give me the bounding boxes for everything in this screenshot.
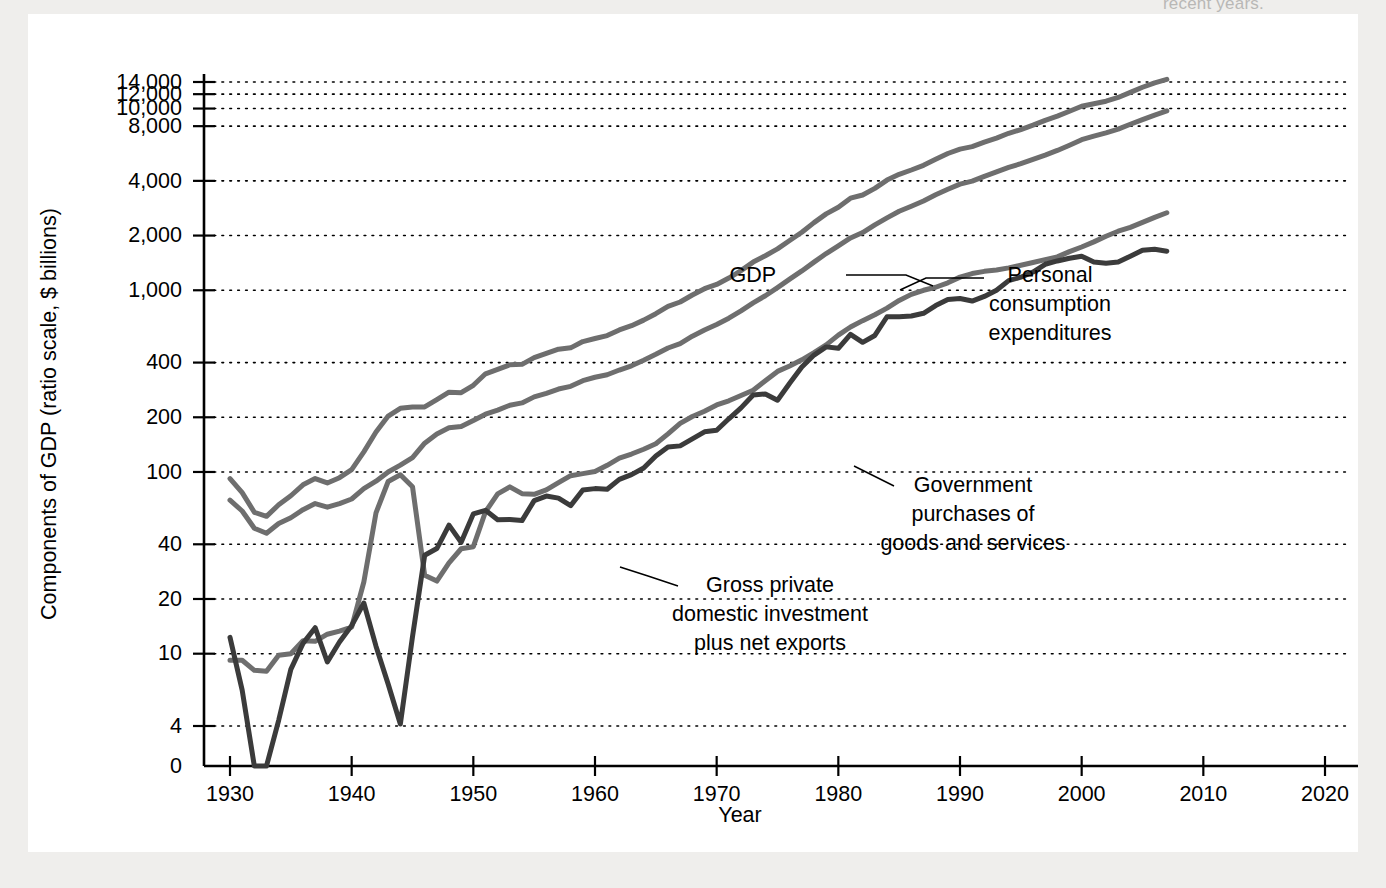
figure-panel: 41020401002004001,0002,0004,0008,00010,0… [28,14,1358,852]
axes [204,74,1358,766]
x-tick-label: 1950 [449,782,497,806]
tick-marks [193,82,1325,776]
x-tick-label: 2000 [1058,782,1106,806]
y-tick-label: 40 [158,532,182,556]
y-tick-label: 1,000 [128,278,182,302]
series-label-line: goods and services [880,531,1065,555]
x-axis-title: Year [718,803,761,827]
series-label-government: Governmentpurchases ofgoods and services [880,473,1065,555]
x-tick-label: 1960 [571,782,619,806]
x-tick-label: 2010 [1179,782,1227,806]
y-tick-label: 20 [158,587,182,611]
series-label-line: GDP [729,263,776,287]
x-axis-tick-labels: 1930194019501960197019801990200020102020 [206,782,1349,806]
y-tick-label: 400 [146,350,182,374]
x-tick-label: 1990 [936,782,984,806]
series-annotations: GDPPersonalconsumptionexpendituresGovern… [672,263,1112,655]
y-axis-tick-labels: 41020401002004001,0002,0004,0008,00010,0… [116,70,182,778]
series-label-line: expenditures [988,321,1111,345]
leader-line-government [854,466,894,486]
y-tick-label: 100 [146,460,182,484]
x-tick-label: 1980 [814,782,862,806]
leader-line-gross_private [620,567,678,586]
x-tick-label: 1930 [206,782,254,806]
y-tick-label: 4 [170,714,182,738]
y-tick-label: 10 [158,641,182,665]
series-label-personal_consumption: Personalconsumptionexpenditures [988,263,1111,345]
y-tick-label: 14,000 [116,70,182,94]
cutoff-caption-text: recent years. [1163,0,1264,14]
series-label-line: Government [914,473,1032,497]
y-tick-label-zero: 0 [170,754,182,778]
x-tick-label: 2020 [1301,782,1349,806]
data-series [230,79,1167,766]
series-label-gdp: GDP [729,263,776,287]
y-axis-title: Components of GDP (ratio scale, $ billio… [37,208,61,620]
series-label-line: consumption [989,292,1111,316]
x-tick-label: 1940 [328,782,376,806]
y-tick-label: 4,000 [128,169,182,193]
series-label-gross_private: Gross privatedomestic investmentplus net… [672,573,868,655]
series-label-line: Gross private [706,573,834,597]
series-label-line: purchases of [911,502,1034,526]
series-label-line: plus net exports [694,631,846,655]
y-tick-label: 200 [146,405,182,429]
series-label-line: domestic investment [672,602,868,626]
series-label-line: Personal [1008,263,1093,287]
y-tick-label: 2,000 [128,223,182,247]
grid-lines [214,82,1346,726]
gdp-components-chart: 41020401002004001,0002,0004,0008,00010,0… [28,14,1358,852]
